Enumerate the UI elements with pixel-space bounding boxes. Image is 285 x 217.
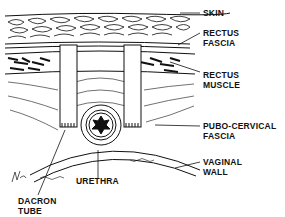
label-line: TUBE	[18, 206, 57, 216]
rectus-fascia	[5, 42, 190, 48]
artist-signature	[12, 171, 26, 182]
label-line: FASCIA	[203, 131, 276, 141]
label-rectus-fascia: RECTUSFASCIA	[203, 28, 239, 48]
label-urethra: URETHRA	[76, 176, 119, 186]
label-line: DACRON	[18, 196, 57, 206]
dacron-tube-right	[124, 45, 141, 127]
label-line: WALL	[203, 167, 242, 177]
fat-layer	[8, 16, 190, 38]
label-line: FASCIA	[203, 38, 239, 48]
skin-layer	[5, 13, 230, 16]
label-rectus-muscle: RECTUSMUSCLE	[203, 70, 240, 90]
dacron-tube-left	[60, 45, 77, 127]
label-skin: SKIN	[203, 8, 224, 18]
rectus-muscle	[5, 51, 195, 74]
label-dacron-tube: DACRONTUBE	[18, 196, 57, 216]
diagram: SKIN RECTUSFASCIA RECTUSMUSCLE PUBO-CERV…	[0, 0, 285, 217]
label-pubo-cervical-fascia: PUBO-CERVICALFASCIA	[203, 121, 276, 141]
label-line: PUBO-CERVICAL	[203, 121, 276, 131]
illustration	[0, 0, 285, 217]
label-line: RECTUS	[203, 70, 240, 80]
label-line: VAGINAL	[203, 157, 242, 167]
label-line: MUSCLE	[203, 80, 240, 90]
label-vaginal-wall: VAGINALWALL	[203, 157, 242, 177]
urethra	[81, 105, 121, 145]
label-line: RECTUS	[203, 28, 239, 38]
